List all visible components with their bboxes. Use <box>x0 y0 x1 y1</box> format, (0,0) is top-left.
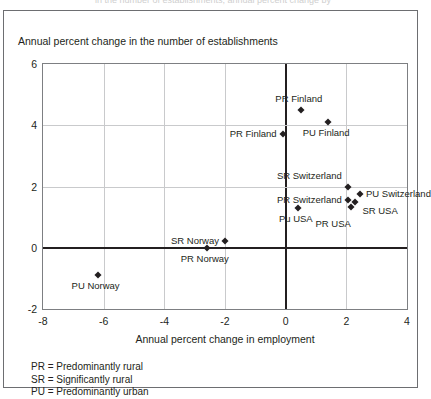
y-tick-label: 0 <box>31 243 37 254</box>
x-tick-label: 2 <box>343 316 349 327</box>
data-point <box>347 204 354 211</box>
y-tick-label: 2 <box>31 181 37 192</box>
x-tick-label: -8 <box>38 316 47 327</box>
data-point-label: PR USA <box>316 219 351 229</box>
x-tick-label: -6 <box>99 316 108 327</box>
y-gridline <box>43 125 407 126</box>
y-tick-label: -2 <box>28 304 37 315</box>
chart-frame: Annual percent change in the number of e… <box>3 10 418 388</box>
data-point-label: Pu USA <box>279 214 313 224</box>
x-tick-label: 4 <box>404 316 410 327</box>
y-tick-label: 4 <box>31 120 37 131</box>
x-axis-title: Annual percent change in employment <box>42 333 408 345</box>
x-zero-axis <box>43 247 407 249</box>
data-point-label: PR Norway <box>181 254 229 264</box>
data-point-label: PU Norway <box>72 281 120 291</box>
figure-caption-text: in the number of establishments, annual … <box>95 0 331 5</box>
plot-area: -8-6-4-2024-20246PR FinlandPU FinlandPR … <box>42 63 408 310</box>
data-point <box>297 106 304 113</box>
y-tick-label: 6 <box>31 59 37 70</box>
data-point-label: SR Norway <box>171 236 219 246</box>
x-tick-label: -2 <box>220 316 229 327</box>
data-point-label: PR Switzerland <box>277 195 342 205</box>
legend-item-pr: PR = Predominantly rural <box>31 361 149 374</box>
y-gridline <box>43 187 407 188</box>
data-point-label: PU Switzerland <box>366 189 431 199</box>
data-point-label: PR Finland <box>230 129 277 139</box>
x-tick-label: -4 <box>160 316 169 327</box>
data-point <box>221 237 228 244</box>
y-axis-title: Annual percent change in the number of e… <box>18 35 278 47</box>
data-point <box>294 204 301 211</box>
figure-caption: in the number of establishments, annual … <box>0 0 426 9</box>
data-point-label: SR Switzerland <box>277 171 342 181</box>
data-point-label: PU Finland <box>303 128 350 138</box>
chart-legend: PR = Predominantly rural SR = Significan… <box>31 361 149 399</box>
x-tick-label: 0 <box>283 316 289 327</box>
data-point-label: PR Finland <box>275 94 322 104</box>
legend-item-sr: SR = Significantly rural <box>31 374 149 387</box>
data-point <box>94 272 101 279</box>
data-point-label: SR USA <box>362 206 397 216</box>
legend-item-pu: PU = Predominantly urban <box>31 386 149 399</box>
data-point <box>356 191 363 198</box>
